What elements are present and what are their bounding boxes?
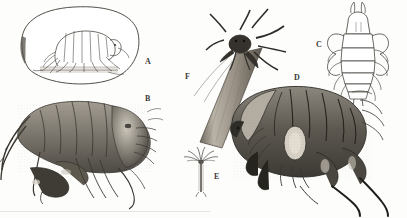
panel-b-figure [0, 101, 163, 209]
panel-a-figure [20, 7, 139, 84]
panel-label-e: E [214, 173, 220, 181]
panel-label-f: F [185, 73, 190, 81]
illustration-plate: A B C D E F [0, 0, 407, 218]
panel-label-a: A [145, 58, 151, 66]
panel-label-d: D [294, 74, 300, 82]
panel-label-b: B [145, 95, 151, 103]
panel-label-c: C [316, 41, 322, 49]
scan-edge-artifact [0, 211, 210, 212]
figure-layer [0, 0, 407, 218]
panel-e-figure [184, 147, 218, 197]
panel-d-figure [230, 86, 388, 216]
